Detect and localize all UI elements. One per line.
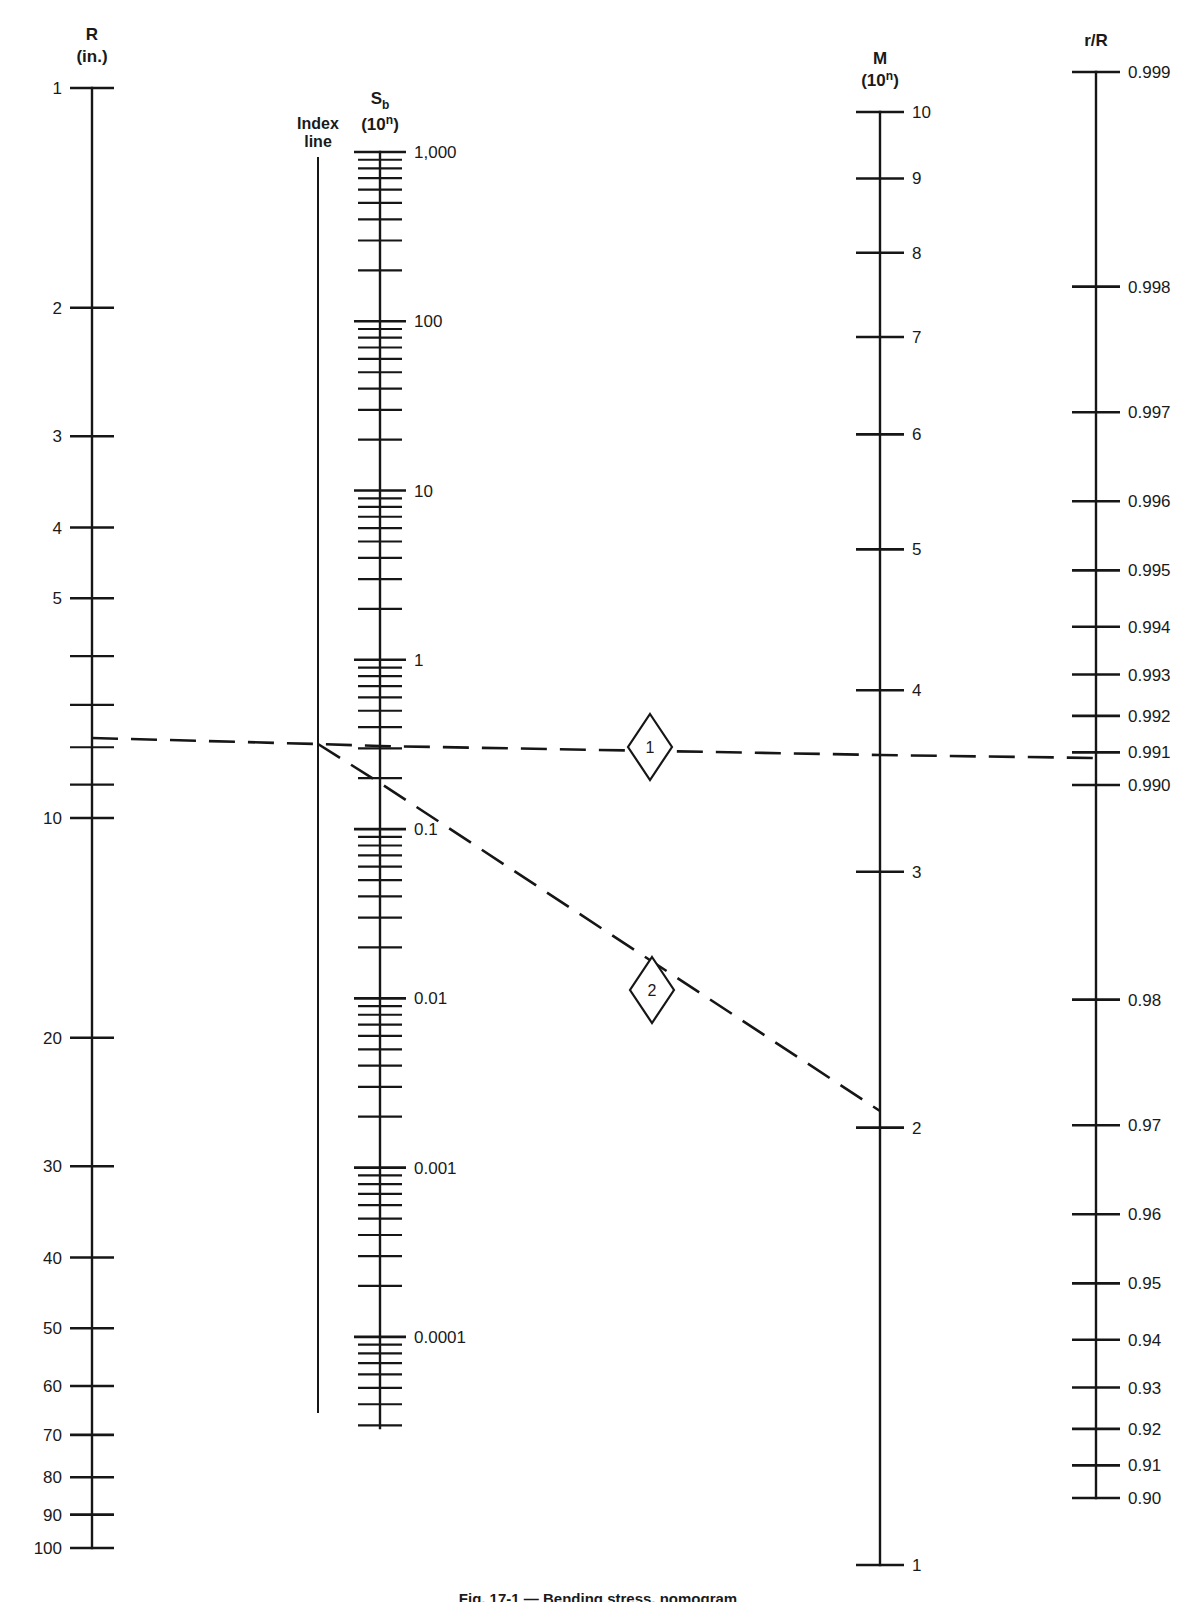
r-axis-tick-label: 50	[43, 1319, 62, 1338]
m-axis-title: M	[873, 49, 887, 68]
m-axis-tick-label: 6	[912, 425, 921, 444]
rr-axis-tick-label: 0.993	[1128, 666, 1171, 685]
m-axis-tick-label: 7	[912, 328, 921, 347]
sb-axis-tick-label: 0.01	[414, 989, 447, 1008]
sb-axis-tick-label: 0.0001	[414, 1328, 466, 1347]
r-axis-tick-label: 100	[34, 1539, 62, 1558]
rr-axis-tick-label: 0.998	[1128, 278, 1171, 297]
rr-axis-tick-label: 0.93	[1128, 1379, 1161, 1398]
r-axis-title: R	[86, 25, 98, 44]
r-axis-tick-label: 2	[53, 299, 62, 318]
r-axis-tick-label: 4	[53, 519, 62, 538]
rr-axis-tick-label: 0.94	[1128, 1331, 1161, 1350]
rr-axis-tick-label: 0.996	[1128, 492, 1171, 511]
nomogram-figure: 12345102030405060708090100R(in.)Indexlin…	[0, 0, 1196, 1602]
m-axis-tick-label: 10	[912, 103, 931, 122]
r-axis-tick-label: 20	[43, 1029, 62, 1048]
r-axis-tick-label: 90	[43, 1506, 62, 1525]
r-axis-tick-label: 40	[43, 1249, 62, 1268]
m-axis-tick-label: 1	[912, 1556, 921, 1575]
index-line-title-1: Index	[297, 115, 339, 132]
r-axis-tick-label: 70	[43, 1426, 62, 1445]
rr-axis-tick-label: 0.995	[1128, 561, 1171, 580]
iso-line-2[interactable]	[318, 744, 880, 1111]
rr-axis-tick-label: 0.997	[1128, 403, 1171, 422]
iso-marker-label-1: 1	[646, 739, 655, 756]
r-axis-tick-label: 30	[43, 1157, 62, 1176]
nomogram-canvas: 12345102030405060708090100R(in.)Indexlin…	[0, 0, 1196, 1602]
m-axis-tick-label: 3	[912, 863, 921, 882]
figure-caption: Fig. 17-1 — Bending stress, nomogram	[0, 1588, 1196, 1602]
m-axis-tick-label: 4	[912, 681, 921, 700]
rr-axis-tick-label: 0.990	[1128, 776, 1171, 795]
rr-axis-tick-label: 0.92	[1128, 1420, 1161, 1439]
rr-axis-tick-label: 0.992	[1128, 707, 1171, 726]
rr-axis-tick-label: 0.90	[1128, 1489, 1161, 1508]
m-axis-unit-label: (10n)	[861, 69, 899, 90]
sb-axis-unit-label: (10n)	[361, 113, 399, 134]
rr-axis-tick-label: 0.95	[1128, 1274, 1161, 1293]
r-axis-tick-label: 3	[53, 427, 62, 446]
m-axis-tick-label: 5	[912, 540, 921, 559]
r-axis-tick-label: 10	[43, 809, 62, 828]
sb-axis-tick-label: 1,000	[414, 143, 457, 162]
sb-axis-tick-label: 1	[414, 651, 423, 670]
sb-axis-tick-label: 100	[414, 312, 442, 331]
iso-line-1[interactable]	[92, 738, 1096, 758]
sb-axis-tick-label: 0.1	[414, 820, 438, 839]
r-axis-tick-label: 80	[43, 1468, 62, 1487]
m-axis-tick-label: 8	[912, 244, 921, 263]
m-axis-tick-label: 2	[912, 1119, 921, 1138]
index-line-title-2: line	[304, 133, 332, 150]
rr-axis-tick-label: 0.999	[1128, 63, 1171, 82]
rr-axis-tick-label: 0.994	[1128, 618, 1171, 637]
sb-axis-tick-label: 0.001	[414, 1159, 457, 1178]
rr-axis-tick-label: 0.96	[1128, 1205, 1161, 1224]
rr-axis-tick-label: 0.98	[1128, 991, 1161, 1010]
iso-marker-label-2: 2	[648, 982, 657, 999]
sb-axis-title: Sb	[371, 89, 390, 112]
m-axis-tick-label: 9	[912, 169, 921, 188]
rr-axis-title: r/R	[1084, 31, 1108, 50]
rr-axis-tick-label: 0.991	[1128, 743, 1171, 762]
r-axis-tick-label: 1	[53, 79, 62, 98]
rr-axis-tick-label: 0.91	[1128, 1456, 1161, 1475]
r-axis-tick-label: 60	[43, 1377, 62, 1396]
sb-axis-tick-label: 10	[414, 482, 433, 501]
r-axis-tick-label: 5	[53, 589, 62, 608]
r-axis-unit-label: (in.)	[76, 47, 107, 66]
rr-axis-tick-label: 0.97	[1128, 1116, 1161, 1135]
